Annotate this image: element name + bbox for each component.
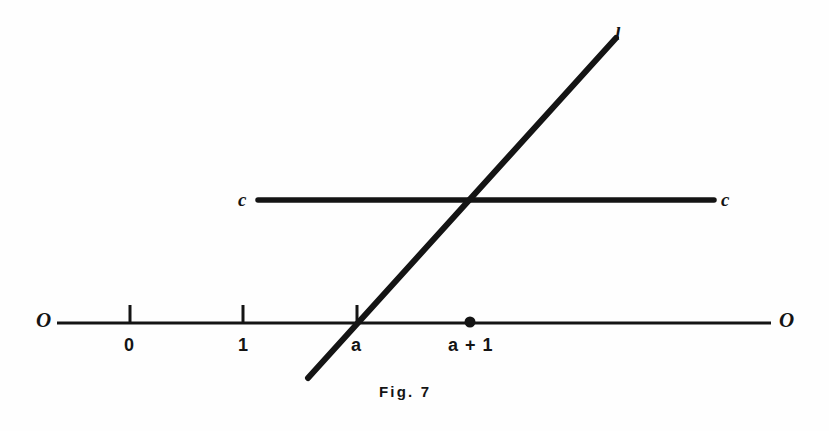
label-tick-zero: 0 (124, 336, 134, 354)
figure-caption: Fig. 7 (379, 384, 431, 399)
label-line-l: l (615, 24, 620, 43)
label-point-a-plus-1: a + 1 (448, 336, 494, 354)
label-tick-a: a (351, 336, 361, 354)
figure-container: O O c c l 0 1 a a + 1 Fig. 7 (0, 0, 829, 431)
label-tick-one: 1 (238, 336, 248, 354)
label-line-c-left: c (238, 190, 246, 209)
figure-drawing-canvas (0, 0, 829, 431)
label-origin-right: O (779, 310, 794, 331)
label-origin-left: O (36, 310, 51, 331)
line-l (308, 38, 616, 378)
point-marker-a-plus-1 (465, 317, 476, 328)
label-line-c-right: c (721, 190, 729, 209)
